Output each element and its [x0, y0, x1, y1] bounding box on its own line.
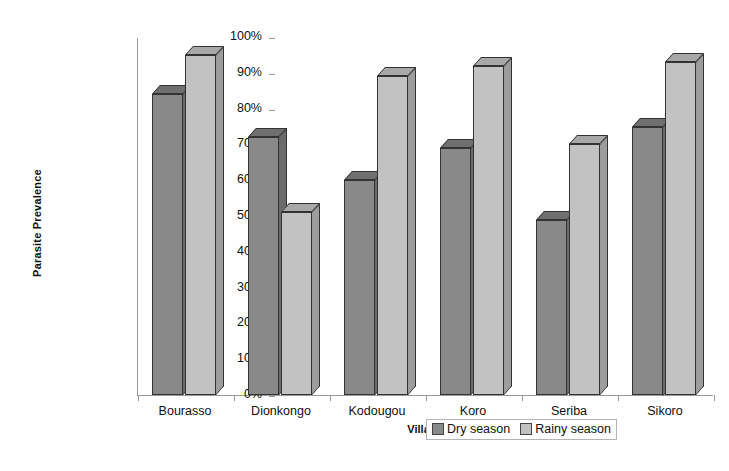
- bar-side-face: [408, 68, 416, 395]
- x-axis-tick-mark: [618, 395, 619, 401]
- bar-chart: Parasite Prevalence 100%90%80%70%60%50%4…: [0, 0, 729, 471]
- legend-label-rainy-season: Rainy season: [535, 422, 611, 436]
- x-axis-tick-mark: [138, 395, 139, 401]
- x-axis-label-kodougou: Kodougou: [329, 404, 425, 418]
- bar-front-face: [665, 62, 696, 395]
- bar-front-face: [632, 127, 663, 396]
- bar-side-face: [504, 57, 512, 395]
- legend-label-dry-season: Dry season: [447, 422, 510, 436]
- bar-seriba-dry: [536, 220, 567, 395]
- x-axis-label-bourasso: Bourasso: [137, 404, 233, 418]
- bar-koro-rainy: [473, 66, 504, 395]
- bar-kodougou-rainy: [377, 76, 408, 395]
- bar-bourasso-rainy: [185, 55, 216, 395]
- legend-swatch-rainy-icon: [520, 423, 532, 435]
- bar-front-face: [536, 220, 567, 395]
- bar-side-face: [696, 53, 704, 395]
- x-axis-tick-mark: [522, 395, 523, 401]
- x-axis-label-koro: Koro: [425, 404, 521, 418]
- x-axis-tick-mark: [426, 395, 427, 401]
- y-axis-title: Parasite Prevalence: [31, 123, 43, 323]
- bar-dionkongo-dry: [248, 137, 279, 395]
- plot-area: 100%90%80%70%60%50%40%30%20%10%0%: [137, 38, 713, 396]
- x-axis-tick-mark: [234, 395, 235, 401]
- legend-swatch-dry-icon: [432, 423, 444, 435]
- legend-item-rainy-season: Rainy season: [520, 422, 611, 436]
- bar-front-face: [185, 55, 216, 395]
- bar-front-face: [152, 94, 183, 395]
- bar-side-face: [312, 204, 320, 395]
- bar-bourasso-dry: [152, 94, 183, 395]
- bar-group: [522, 37, 618, 395]
- bar-front-face: [248, 137, 279, 395]
- bar-group: [234, 37, 330, 395]
- bar-koro-dry: [440, 148, 471, 395]
- bar-group: [330, 37, 426, 395]
- bar-front-face: [569, 144, 600, 395]
- x-axis-label-dionkongo: Dionkongo: [233, 404, 329, 418]
- x-axis-tick-mark: [330, 395, 331, 401]
- x-axis-tick-mark: [714, 395, 715, 401]
- bar-sikoro-dry: [632, 127, 663, 396]
- bar-kodougou-dry: [344, 180, 375, 395]
- bar-group: [618, 37, 714, 395]
- bar-front-face: [473, 66, 504, 395]
- x-axis-title: Village: [137, 423, 713, 435]
- y-axis-tick-mark: [269, 396, 275, 397]
- bar-front-face: [377, 76, 408, 395]
- bar-sikoro-rainy: [665, 62, 696, 395]
- bar-seriba-rainy: [569, 144, 600, 395]
- chart-legend: Dry season Rainy season: [426, 419, 617, 440]
- bar-side-face: [216, 46, 224, 395]
- x-axis-label-seriba: Seriba: [521, 404, 617, 418]
- bar-front-face: [281, 212, 312, 395]
- x-axis-label-sikoro: Sikoro: [617, 404, 713, 418]
- legend-item-dry-season: Dry season: [432, 422, 510, 436]
- bar-group: [426, 37, 522, 395]
- bar-group: [138, 37, 234, 395]
- bar-front-face: [440, 148, 471, 395]
- bar-side-face: [600, 136, 608, 395]
- bar-dionkongo-rainy: [281, 212, 312, 395]
- bar-front-face: [344, 180, 375, 395]
